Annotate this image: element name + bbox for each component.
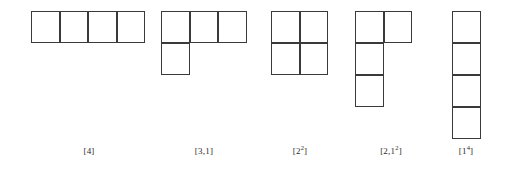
label-tail: ] xyxy=(91,146,94,156)
diagram-cell xyxy=(452,75,481,107)
label-base: [2 xyxy=(293,146,301,156)
diagram-cell xyxy=(161,11,190,43)
label-base: [1 xyxy=(459,146,467,156)
young-diagrams-figure: [4][3,1][22][2,12][14] xyxy=(0,0,513,174)
diagram-label-partition-4: [4] xyxy=(49,146,129,157)
label-base: [2,1 xyxy=(380,146,395,156)
diagram-cell xyxy=(452,11,481,43)
label-tail: ] xyxy=(399,146,402,156)
label-tail: ] xyxy=(470,146,473,156)
diagram-cell xyxy=(452,107,481,139)
diagram-cell xyxy=(31,11,60,43)
diagram-cell xyxy=(355,43,384,75)
diagram-cell xyxy=(190,11,219,43)
diagram-label-partition-2-1-1: [2,12] xyxy=(351,146,431,157)
diagram-cell xyxy=(300,43,329,75)
diagram-label-partition-2-2: [22] xyxy=(260,146,340,157)
diagram-cell xyxy=(300,11,329,43)
label-tail: ] xyxy=(304,146,307,156)
diagram-cell xyxy=(117,11,146,43)
diagram-cell xyxy=(218,11,247,43)
diagram-cell xyxy=(60,11,89,43)
diagram-cell xyxy=(452,43,481,75)
diagram-cell xyxy=(88,11,117,43)
diagram-cell xyxy=(355,75,384,107)
diagram-cell xyxy=(355,11,384,43)
label-base: [3,1 xyxy=(195,146,210,156)
diagram-label-partition-1-1-1-1: [14] xyxy=(426,146,506,157)
diagram-cell xyxy=(271,11,300,43)
label-tail: ] xyxy=(210,146,213,156)
diagram-cell xyxy=(384,11,413,43)
diagram-label-partition-3-1: [3,1] xyxy=(164,146,244,157)
diagram-cell xyxy=(271,43,300,75)
diagram-cell xyxy=(161,43,190,75)
